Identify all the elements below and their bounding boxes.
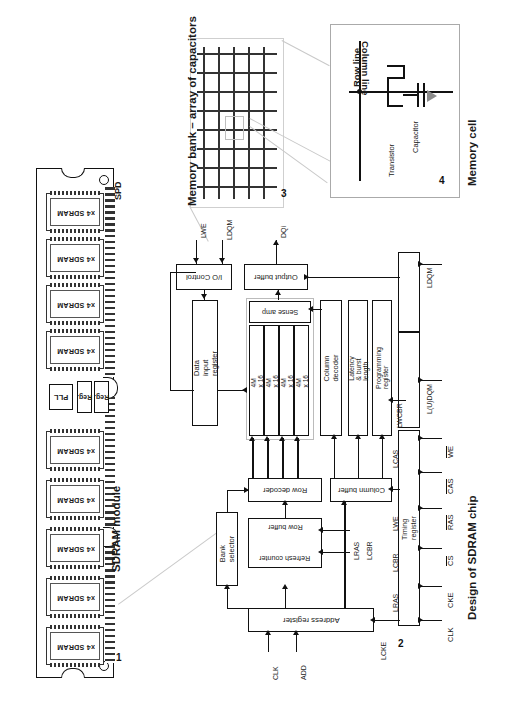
block-programming-register: Programming register	[372, 300, 392, 436]
transistor-channel-b	[387, 105, 403, 107]
wire-ludqm	[420, 380, 442, 381]
memory-bank-title: Memory bank – array of capacitors	[186, 16, 198, 206]
programming-register-label: Programming register	[375, 347, 389, 389]
block-column-decoder: Column decoder	[320, 300, 342, 436]
column-decoder-label: Column decoder	[322, 354, 340, 381]
chip-sdram-6: x4 SDRAM	[46, 480, 104, 518]
io-control-label: I/O Control	[186, 273, 222, 282]
chip-label: x4 SDRAM	[57, 255, 95, 264]
figure-number-3: 3	[281, 188, 287, 199]
leader-bank-to-cell-top	[282, 40, 330, 66]
signal-lwe: LWE	[200, 223, 207, 238]
block-dqm-register-upper	[398, 252, 420, 332]
chip-label: x4 SDRAM	[57, 496, 95, 505]
highlighted-memory-cell	[225, 116, 244, 140]
leader-module-to-chip	[118, 529, 222, 605]
memory-bank-panel	[190, 38, 284, 208]
wire-ldqm-right	[420, 264, 442, 265]
sdram-module-board: x4 SDRAM x4 SDRAM x4 SDRAM x4 SDRAM PLL …	[36, 168, 114, 678]
bank-label: 4M x 16	[250, 374, 264, 387]
block-address-register: Address register	[248, 608, 374, 632]
signal-lras-rowbuffer: LRAS	[353, 542, 360, 560]
wire-columnbuffer-to-programming	[382, 436, 383, 478]
latency-burst-label: Latency & burst length	[348, 356, 369, 381]
signal-lcas: LCAS	[392, 450, 399, 468]
wire-timing-lcke	[374, 620, 400, 621]
wire-pin-clk	[420, 620, 442, 621]
data-input-register-label: Data input register	[192, 350, 219, 375]
wire-lras-to-refresh	[322, 530, 350, 531]
wire-add-to-addressreg	[296, 632, 297, 652]
signal-ludqm: L(U)DQM	[426, 384, 433, 414]
signal-dqi: DQi	[280, 226, 287, 238]
sense-amp-label: Sense amp	[262, 308, 298, 317]
wire-right-to-outputbuffer	[308, 277, 400, 278]
signal-add-addr: ADD	[300, 665, 307, 680]
memory-bank-4: 4M x 16	[294, 325, 309, 436]
board-mount-hole-top	[99, 175, 109, 185]
wire-rowdecoder-bank3	[282, 438, 284, 478]
edge-connector-upper	[105, 187, 115, 377]
chip-label: x4 SDRAM	[57, 209, 95, 218]
pin-label-cas: CAS	[446, 479, 455, 494]
memory-cell-panel: Row line Column line Transistor Capacito…	[330, 24, 460, 198]
bank-selector-label: Bank selector	[218, 536, 236, 562]
block-row-decoder: Row decoder	[248, 478, 322, 502]
bank-label: 4M x 16	[295, 374, 309, 387]
figure-number-1: 1	[116, 652, 122, 663]
row-buffer-label: Row buffer	[268, 523, 303, 532]
chip-sdram-2: x4 SDRAM	[46, 239, 104, 277]
bank-array-container: Sense amp 4M x 16 4M x 16 4M x 16 4M x 1…	[246, 298, 314, 440]
signal-ldqm-io: LDQM	[226, 220, 233, 240]
block-io-control: I/O Control	[176, 264, 232, 290]
signal-lcke: LCKE	[380, 642, 387, 660]
chip-sdram-3: x4 SDRAM	[46, 285, 104, 323]
transistor-drain-link	[387, 65, 404, 67]
signal-lcbr: LCBR	[392, 553, 399, 572]
chip-label: x4 SDRAM	[57, 347, 95, 356]
wire-pin-we	[420, 438, 442, 439]
reg-label: Reg.	[77, 394, 92, 401]
column-line-label: Column line	[360, 41, 371, 95]
wire-lwcbr	[392, 400, 406, 401]
wire-clk-to-addressreg	[268, 632, 269, 652]
capacitor-label: Capacitor	[411, 121, 420, 153]
module-title: SDRAM module	[110, 486, 122, 572]
pin-label-cs: CS	[446, 556, 455, 566]
wire-rowdecoder-bank1	[252, 438, 254, 478]
wire-iobus-bottom	[170, 390, 194, 391]
signal-lwcbr: LWCBR	[396, 403, 403, 428]
ground-arrow-icon	[427, 90, 437, 102]
board-notch-top	[61, 168, 85, 178]
wire-pin-cas	[420, 472, 442, 473]
pin-label-cke: CKE	[446, 593, 455, 608]
address-register-label: Address register	[283, 616, 340, 625]
chip-sdram-4: x4 SDRAM	[46, 331, 104, 369]
figure-number-4: 4	[439, 175, 445, 186]
wire-addressreg-to-columnbuffer	[344, 502, 346, 608]
transistor-source	[403, 65, 405, 79]
column-buffer-label: Column buffer	[338, 486, 385, 495]
signal-ldqm-right: LDQM	[426, 268, 433, 288]
figure-number-2: 2	[398, 638, 404, 649]
chip-sdram-7: x4 SDRAM	[46, 529, 104, 567]
wire-addressreg-to-rowbuffer	[285, 586, 286, 608]
transistor-label: Transistor	[387, 144, 396, 177]
wire-iobus-vertical	[170, 272, 171, 390]
bank-label: 4M x 16	[280, 374, 294, 387]
block-bank-selector: Bank selector	[216, 512, 238, 586]
capacitor-lead	[403, 94, 418, 96]
capacitor-plate-2	[423, 83, 425, 107]
board-notch-bottom	[61, 668, 85, 678]
chip-label: x4 SDRAM	[57, 447, 95, 456]
block-refresh-counter-row-buffer: Row buffer Refresh counter	[248, 518, 322, 568]
chip-sdram-8: x4 SDRAM	[46, 578, 104, 616]
wire-rowdecoder-bank2	[267, 438, 269, 478]
register-chip-2: Reg.	[94, 381, 109, 413]
pin-label-we: WE	[446, 446, 455, 458]
output-buffer-label: Output buffer	[254, 273, 298, 282]
signal-lcbr-rowbuffer: LCBR	[366, 541, 373, 560]
chip-label: x4 SDRAM	[57, 545, 95, 554]
wire-bankselector-vertical	[227, 490, 228, 512]
chip-label: x4 SDRAM	[57, 301, 95, 310]
